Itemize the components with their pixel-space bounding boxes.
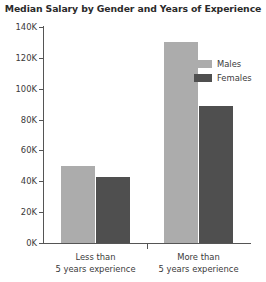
bar-males-group-2 [164,42,198,243]
legend-item-males: Males [194,57,252,70]
legend-swatch-males [194,60,212,68]
y-axis-tick [39,243,44,244]
legend-label-females: Females [217,73,252,83]
x-axis-label-line: Less than [36,252,156,264]
y-axis-label: 100K [1,84,37,94]
y-axis-label: 140K [1,22,37,32]
bar-males-group-1 [61,166,95,243]
y-axis-label: 120K [1,53,37,63]
y-axis-label: 40K [1,176,37,186]
x-axis-label: More than5 years experience [139,252,259,275]
legend-label-males: Males [217,59,241,69]
bar-females-group-2 [199,106,233,243]
chart-legend: MalesFemales [194,57,252,85]
bar-females-group-1 [96,177,130,243]
y-axis-label: 60K [1,145,37,155]
x-axis-label-line: 5 years experience [36,264,156,276]
x-axis-label: Less than5 years experience [36,252,156,275]
x-axis-label-line: More than [139,252,259,264]
chart-title: Median Salary by Gender and Years of Exp… [0,3,266,14]
y-axis-label: 0K [1,238,37,248]
y-axis-label: 80K [1,115,37,125]
y-axis-label: 20K [1,207,37,217]
bar-chart: Median Salary by Gender and Years of Exp… [0,0,266,282]
x-axis-tick [147,244,148,249]
legend-swatch-females [194,74,212,82]
x-axis-label-line: 5 years experience [139,264,259,276]
legend-item-females: Females [194,71,252,84]
